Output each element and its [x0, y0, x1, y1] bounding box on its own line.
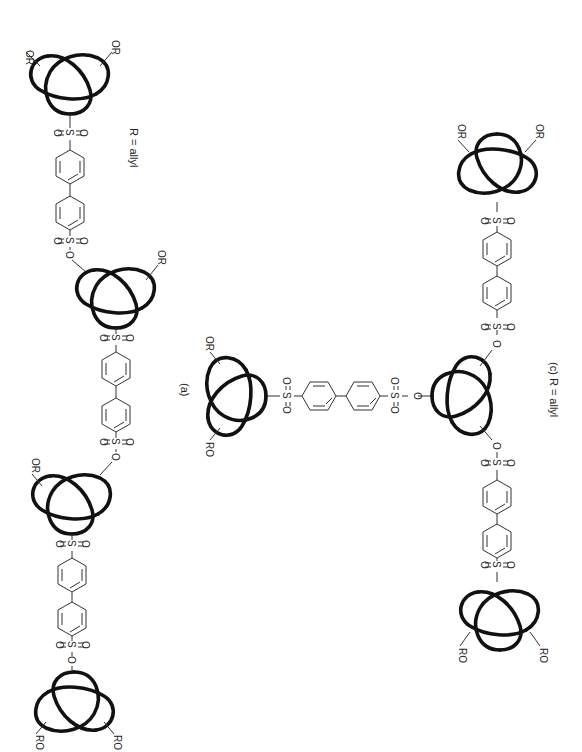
oxygen-atom: O	[491, 442, 502, 450]
oxygen-atom: O	[110, 453, 121, 461]
trefoil-knot-c-bottom	[461, 591, 539, 650]
oxygen-atom: O	[479, 459, 490, 467]
sulfur-atom: S	[491, 459, 502, 466]
sulfur-atom: S	[64, 129, 75, 136]
sulfur-atom: S	[281, 392, 292, 399]
oxygen-atom: O	[389, 406, 400, 414]
oxygen-atom: O	[54, 540, 65, 548]
oxygen-atom: O	[66, 656, 77, 664]
or-label: OR	[110, 40, 121, 55]
trefoil-knot-4	[36, 672, 114, 731]
oxygen-atom: O	[389, 377, 400, 385]
or-label: OR	[534, 124, 545, 139]
oxygen-atom: O	[281, 377, 292, 385]
oxygen-atom: O	[124, 334, 135, 342]
ro-label: RO	[112, 735, 123, 750]
panel-a-label: (a)	[179, 383, 191, 396]
oxygen-atom: O	[98, 334, 109, 342]
or-label: OR	[204, 336, 215, 351]
oxygen-atom: O	[78, 237, 89, 245]
sulfur-atom: S	[389, 392, 400, 399]
oxygen-atom: O	[491, 340, 502, 348]
panel-c-label: (c) R = allyl	[548, 362, 560, 417]
oxygen-atom: O	[505, 459, 516, 467]
oxygen-atom: O	[98, 438, 109, 446]
trefoil-knot-3	[33, 475, 111, 534]
oxygen-atom: O	[505, 323, 516, 331]
oxygen-atom: O	[505, 561, 516, 569]
panel-a-structure: (a) OR RO S O O S O O O	[179, 336, 430, 457]
sulfur-atom: S	[491, 323, 502, 330]
oxygen-atom: O	[479, 323, 490, 331]
sulfur-atom: S	[66, 641, 77, 648]
ro-label: RO	[457, 648, 468, 663]
oxygen-atom: O	[54, 641, 65, 649]
sulfur-atom: S	[491, 217, 502, 224]
oxygen-atom: O	[80, 540, 91, 548]
trefoil-knot-1	[31, 55, 109, 114]
sulfur-atom: S	[491, 561, 502, 568]
trefoil-knot-c-center	[432, 357, 491, 435]
ro-label: RO	[34, 735, 45, 750]
oxygen-atom: O	[78, 129, 89, 137]
sulfur-atom: S	[110, 334, 121, 341]
oxygen-atom: O	[80, 641, 91, 649]
trefoil-knot-c-top	[459, 134, 537, 193]
ro-label: RO	[204, 442, 215, 457]
trefoil-knot-a	[207, 358, 266, 436]
sulfur-atom: S	[64, 237, 75, 244]
oxygen-atom: O	[64, 251, 75, 259]
oxygen-atom: O	[479, 561, 490, 569]
trefoil-knot-2	[77, 269, 155, 328]
left-polymer-chain: OR OR S O O S O O O OR S O O	[24, 40, 167, 750]
oxygen-atom: O	[124, 438, 135, 446]
or-label: OR	[456, 124, 467, 139]
oxygen-atom: O	[52, 237, 63, 245]
oxygen-atom: O	[479, 217, 490, 225]
left-legend-label: R = allyl	[128, 128, 140, 167]
chemical-structure-figure: OR OR S O O S O O O OR S O O	[0, 0, 582, 752]
or-label: OR	[156, 250, 167, 265]
or-label: OR	[30, 458, 41, 473]
oxygen-atom: O	[281, 406, 292, 414]
sulfur-atom: S	[110, 438, 121, 445]
oxygen-atom: O	[505, 217, 516, 225]
ro-label: RO	[538, 648, 549, 663]
sulfur-atom: S	[66, 540, 77, 547]
panel-c-structure: O S O O S O O OR OR O S O O	[432, 124, 560, 663]
or-label: OR	[24, 50, 35, 65]
oxygen-atom: O	[52, 129, 63, 137]
